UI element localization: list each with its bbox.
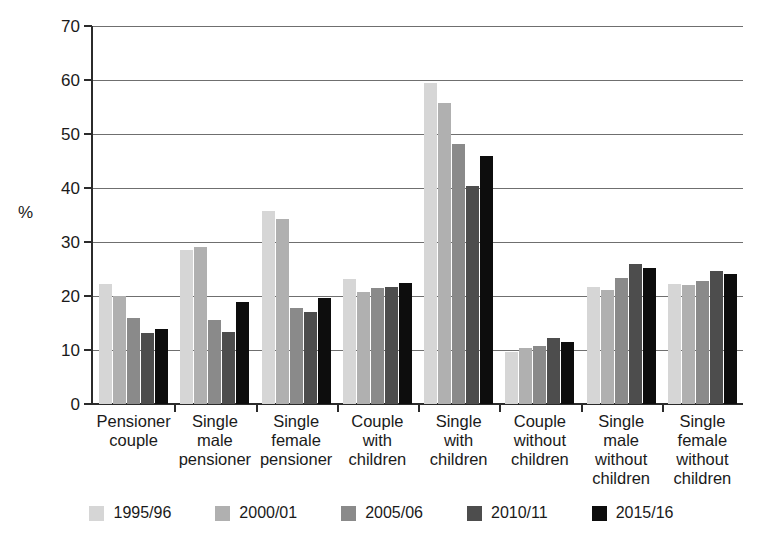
bar [318, 298, 331, 404]
x-tick-mark [418, 404, 420, 412]
bar [533, 346, 546, 404]
legend-label: 1995/96 [113, 505, 171, 521]
legend-swatch-icon [592, 506, 607, 521]
y-tick-label: 40 [46, 180, 80, 197]
bar-group [423, 26, 494, 404]
y-tick-label: 60 [46, 72, 80, 89]
x-tick-mark [337, 404, 339, 412]
bar-group [342, 26, 413, 404]
x-category-label: Couplewithchildren [333, 412, 422, 469]
bar [724, 274, 737, 404]
bar [399, 283, 412, 405]
bar [438, 103, 451, 404]
bar [208, 320, 221, 404]
x-category-label: Singlemalepensioner [170, 412, 259, 469]
bar [276, 219, 289, 404]
x-tick-mark [256, 404, 258, 412]
bar [601, 290, 614, 404]
x-category-label-line: couple [89, 431, 178, 450]
bar-chart: % 010203040506070 PensionercoupleSinglem… [0, 0, 763, 548]
bar [629, 264, 642, 404]
x-category-label: Singlemalewithoutchildren [577, 412, 666, 488]
bar [371, 288, 384, 404]
y-tick-label: 20 [46, 288, 80, 305]
x-category-label-line: children [658, 469, 747, 488]
x-category-label-line: children [414, 450, 503, 469]
x-category-label-line: female [252, 431, 341, 450]
x-category-label-line: with [414, 431, 503, 450]
bar [519, 348, 532, 404]
bar-group [504, 26, 575, 404]
y-tick-label: 50 [46, 126, 80, 143]
x-category-label-line: Pensioner [89, 412, 178, 431]
x-tick-mark [174, 404, 176, 412]
x-category-label-line: without [658, 450, 747, 469]
x-tick-mark [499, 404, 501, 412]
legend-swatch-icon [89, 506, 104, 521]
bar [357, 292, 370, 404]
x-category-label-line: female [658, 431, 747, 450]
x-category-label-line: children [577, 469, 666, 488]
bar [682, 285, 695, 404]
bar [236, 302, 249, 404]
bar [561, 342, 574, 404]
x-category-label-line: children [333, 450, 422, 469]
bar [262, 211, 275, 404]
x-category-label-line: Couple [333, 412, 422, 431]
bar-group [179, 26, 250, 404]
legend-item[interactable]: 2000/01 [215, 505, 297, 521]
bar-group [586, 26, 657, 404]
x-category-label-line: Single [252, 412, 341, 431]
bar-group [261, 26, 332, 404]
x-tick-mark [581, 404, 583, 412]
x-category-label-line: Single [577, 412, 666, 431]
legend-item[interactable]: 2005/06 [341, 505, 423, 521]
x-category-label-line: children [495, 450, 584, 469]
x-category-label: Pensionercouple [89, 412, 178, 450]
bar [587, 287, 600, 404]
y-axis-title: % [18, 203, 33, 223]
legend-label: 2015/16 [616, 505, 674, 521]
x-category-label-line: without [495, 431, 584, 450]
plot-area [93, 26, 743, 404]
legend-item[interactable]: 2010/11 [467, 505, 548, 521]
x-category-label-line: Single [170, 412, 259, 431]
bar [696, 281, 709, 404]
bar [424, 83, 437, 404]
bar [290, 308, 303, 404]
bar [304, 312, 317, 404]
bar [710, 271, 723, 404]
bar-group [667, 26, 738, 404]
y-tick-label: 10 [46, 342, 80, 359]
bar [194, 247, 207, 404]
x-category-label: Singlefemalewithoutchildren [658, 412, 747, 488]
legend-item[interactable]: 1995/96 [89, 505, 171, 521]
bar [141, 333, 154, 404]
x-category-label: Singlefemalepensioner [252, 412, 341, 469]
legend-item[interactable]: 2015/16 [592, 505, 674, 521]
legend-label: 2005/06 [365, 505, 423, 521]
x-category-label: Couplewithoutchildren [495, 412, 584, 469]
bar [643, 268, 656, 404]
legend: 1995/962000/012005/062010/112015/16 [0, 505, 763, 521]
x-category-label-line: Single [414, 412, 503, 431]
x-category-label-line: Couple [495, 412, 584, 431]
bar [222, 332, 235, 404]
bar [155, 329, 168, 404]
bar [99, 284, 112, 404]
bar [452, 144, 465, 404]
legend-label: 2010/11 [491, 505, 548, 521]
bar [343, 279, 356, 404]
bar [466, 186, 479, 404]
bar [668, 284, 681, 404]
legend-label: 2000/01 [239, 505, 297, 521]
bar-group [98, 26, 169, 404]
x-category-label-line: with [333, 431, 422, 450]
bar [547, 338, 560, 404]
y-tick-label: 30 [46, 234, 80, 251]
bar [180, 250, 193, 404]
x-category-label-line: pensioner [170, 450, 259, 469]
y-axis-tick-labels: 010203040506070 [46, 0, 80, 548]
y-tick-label: 0 [46, 396, 80, 413]
x-category-label-line: without [577, 450, 666, 469]
